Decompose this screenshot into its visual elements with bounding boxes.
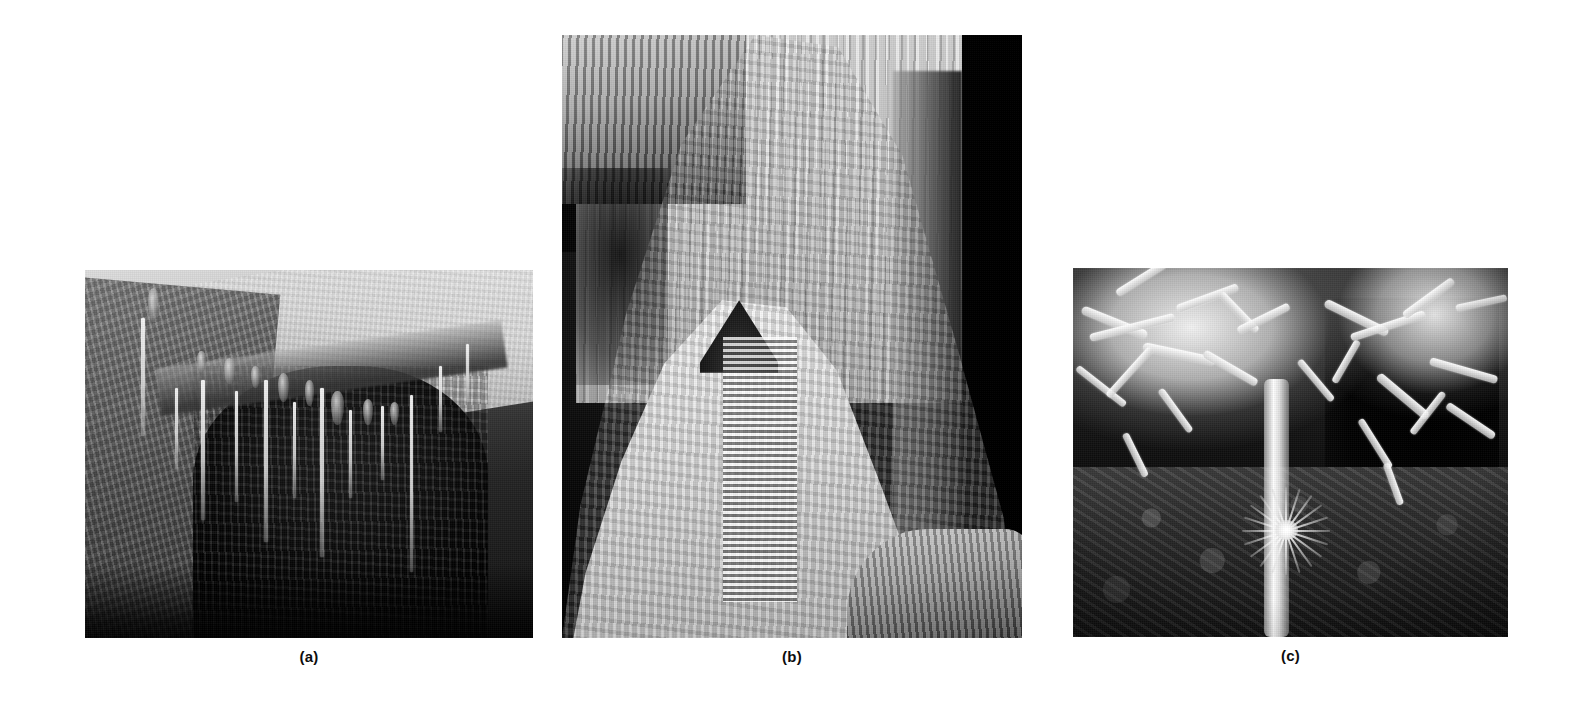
panel-b-photo (562, 35, 1022, 638)
stalactite-stub (331, 391, 344, 424)
panel-a[interactable]: (a) (85, 270, 533, 638)
panel-c-caption: (c) (1073, 647, 1508, 664)
panel-c-photo (1073, 268, 1508, 637)
soda-straw (235, 391, 238, 501)
soda-straw (439, 366, 442, 432)
ribbed-drapery-band (723, 337, 797, 602)
soda-straw (175, 388, 179, 469)
soda-straw (381, 406, 384, 480)
figure-root: (a) (b) (0, 0, 1573, 718)
soda-straw (201, 380, 204, 520)
stalactite-stub (363, 399, 373, 425)
panel-b-caption: (b) (562, 648, 1022, 665)
soda-straw (320, 388, 324, 557)
soda-straw (466, 344, 469, 403)
panel-a-photo (85, 270, 533, 638)
vignette (1073, 268, 1508, 637)
soda-straw (410, 395, 414, 572)
stalactite-stub (224, 358, 235, 384)
soda-straw (141, 318, 145, 436)
stalactite-stub (390, 402, 399, 424)
soda-straw (293, 402, 296, 498)
stalactite-stub (251, 366, 260, 388)
panel-a-floor-shadow (85, 564, 533, 638)
panel-b[interactable]: (b) (562, 35, 1022, 638)
panel-a-caption: (a) (85, 648, 533, 665)
soda-straw (264, 380, 268, 542)
panel-c[interactable]: (c) (1073, 268, 1508, 637)
soda-straw (349, 410, 352, 498)
